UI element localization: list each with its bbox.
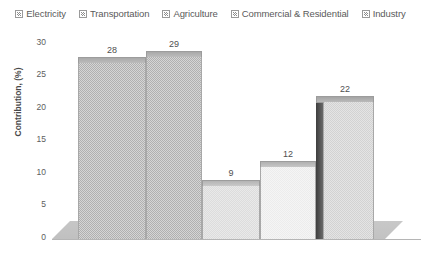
plot-area: 28 29 9 12 22 [52, 34, 421, 259]
y-tick-label-0: 0 [22, 233, 46, 242]
bar-electricity[interactable]: 28 [78, 57, 146, 239]
y-tick-label-20: 20 [22, 103, 46, 112]
legend-swatch-icon [231, 10, 239, 18]
legend-swatch-icon [162, 10, 170, 18]
legend-label: Transportation [90, 9, 150, 19]
y-tick-label-15: 15 [22, 135, 46, 144]
floor-plane-right [367, 221, 421, 239]
legend-label: Commercial & Residential [242, 9, 349, 19]
legend-swatch-icon [15, 10, 23, 18]
bar-front-face [146, 57, 202, 239]
legend-label: Electricity [26, 9, 66, 19]
bar-front-face [78, 63, 146, 239]
legend-swatch-icon [79, 10, 87, 18]
chart-legend: Electricity Transportation Agriculture C… [0, 6, 421, 22]
legend-label: Industry [373, 9, 406, 19]
bar-commercial-residential[interactable]: 12 [260, 161, 316, 239]
bar-value-label: 29 [146, 40, 202, 49]
legend-swatch-icon [362, 10, 370, 18]
axis-baseline [52, 239, 421, 240]
bar-value-label: 9 [202, 169, 260, 178]
bar-value-label: 22 [316, 85, 374, 94]
y-tick-label-30: 30 [22, 38, 46, 47]
bar-agriculture[interactable]: 9 [202, 180, 260, 239]
legend-label: Agriculture [173, 9, 217, 19]
y-tick-label-25: 25 [22, 70, 46, 79]
bar-industry[interactable]: 22 [316, 96, 374, 239]
bar-transportation[interactable]: 29 [146, 51, 202, 239]
bar-value-label: 28 [78, 46, 146, 55]
y-tick-label-10: 10 [22, 168, 46, 177]
bar-front-face [202, 186, 260, 239]
legend-item-electricity: Electricity [15, 9, 66, 19]
legend-item-industry: Industry [362, 9, 406, 19]
bar-front-face [323, 102, 374, 239]
bar-front-face [260, 167, 316, 239]
bar-side-face [316, 100, 323, 239]
y-tick-label-5: 5 [22, 200, 46, 209]
bar-chart: Electricity Transportation Agriculture C… [0, 0, 421, 259]
bar-value-label: 12 [260, 150, 316, 159]
legend-item-agriculture: Agriculture [162, 9, 217, 19]
legend-item-commercial-residential: Commercial & Residential [231, 9, 349, 19]
legend-item-transportation: Transportation [79, 9, 150, 19]
